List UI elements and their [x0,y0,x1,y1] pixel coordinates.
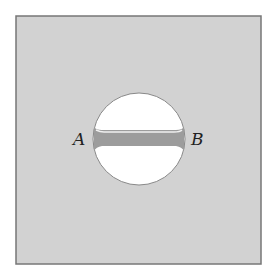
label-a: A [71,129,85,149]
label-b: B [190,129,204,149]
diagram-canvas: A B [0,0,280,275]
